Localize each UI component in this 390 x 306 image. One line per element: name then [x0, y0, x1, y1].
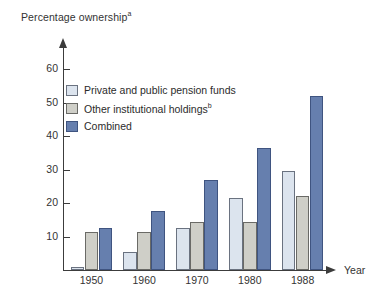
- y-axis-tick-label: 40: [28, 129, 58, 141]
- bar: [243, 222, 257, 271]
- y-axis-tick-label: 10: [28, 230, 58, 242]
- bar: [176, 228, 190, 270]
- x-axis-tick-label: 1970: [167, 274, 227, 286]
- bar: [85, 232, 99, 270]
- legend-label: Combined: [84, 120, 132, 132]
- x-axis-tick-label: 1980: [220, 274, 280, 286]
- legend-swatch: [66, 121, 78, 132]
- bar-chart: Percentage ownershipa Year 102030405060 …: [0, 0, 390, 306]
- legend-item: Private and public pension funds: [66, 83, 236, 98]
- legend-swatch: [66, 85, 78, 96]
- bar: [204, 180, 218, 270]
- legend-label-superscript: b: [208, 102, 212, 109]
- y-axis-tick-label: 60: [28, 62, 58, 74]
- bar-group: [176, 45, 218, 270]
- x-axis-line: [63, 270, 327, 271]
- bar: [123, 252, 137, 270]
- bar: [257, 148, 271, 270]
- bar: [296, 196, 310, 270]
- legend-label: Private and public pension funds: [84, 84, 236, 96]
- bar-series-area: [63, 45, 327, 270]
- chart-legend: Private and public pension fundsOther in…: [66, 83, 236, 137]
- bar-group: [229, 45, 271, 270]
- legend-label: Other institutional holdingsb: [84, 102, 212, 115]
- bar: [71, 267, 85, 270]
- x-axis-arrow-icon: [326, 266, 336, 274]
- bar-group: [71, 45, 113, 270]
- y-axis-title: Percentage ownershipa: [21, 8, 131, 23]
- legend-label-text: Other institutional holdings: [84, 103, 208, 115]
- legend-label-text: Private and public pension funds: [84, 84, 236, 96]
- x-axis-tick-label: 1950: [61, 274, 121, 286]
- legend-item: Combined: [66, 119, 236, 134]
- y-axis-tick-label: 50: [28, 96, 58, 108]
- bar: [310, 96, 324, 270]
- bar: [229, 198, 243, 270]
- bar: [99, 228, 113, 270]
- x-axis-label: Year: [344, 264, 365, 276]
- bar: [151, 211, 165, 270]
- y-axis-tick-label: 30: [28, 163, 58, 175]
- bar: [137, 232, 151, 270]
- legend-swatch: [66, 103, 78, 114]
- legend-item: Other institutional holdingsb: [66, 101, 236, 116]
- y-axis-title-text: Percentage ownership: [21, 11, 127, 23]
- bar: [282, 171, 296, 270]
- legend-label-text: Combined: [84, 120, 132, 132]
- x-axis-tick-label: 1960: [114, 274, 174, 286]
- y-axis-title-superscript: a: [127, 10, 131, 17]
- x-axis-tick-label: 1988: [273, 274, 333, 286]
- y-axis-tick-label: 20: [28, 196, 58, 208]
- bar: [190, 222, 204, 271]
- bar-group: [282, 45, 324, 270]
- bar-group: [123, 45, 165, 270]
